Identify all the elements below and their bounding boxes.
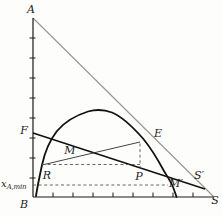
label-vertex-A: A: [27, 4, 35, 15]
construction-dashed-lines: [33, 144, 168, 186]
label-point-P: P: [135, 171, 142, 182]
x-a-min-subscript: A,min: [7, 183, 27, 191]
binodal-curve: [36, 110, 177, 197]
extraction-triangle-diagram: A B S S′ F M R E P M′ xA,min: [0, 0, 222, 216]
label-mixture-M: M: [64, 145, 75, 156]
diagram-canvas: [0, 0, 222, 216]
label-vertex-S: S: [211, 195, 219, 206]
label-feed-F: F: [20, 125, 28, 136]
label-extract-E: E: [154, 128, 162, 139]
tie-line-R-E: [42, 142, 140, 165]
label-raffinate-R: R: [43, 170, 51, 181]
label-x-A-min: xA,min: [1, 179, 26, 191]
label-M-prime: M′: [169, 178, 183, 189]
label-vertex-B: B: [20, 199, 28, 210]
x-axis-ticks: [53, 193, 193, 198]
label-S-prime: S′: [194, 170, 204, 181]
hypotenuse-line-AS: [33, 18, 214, 197]
